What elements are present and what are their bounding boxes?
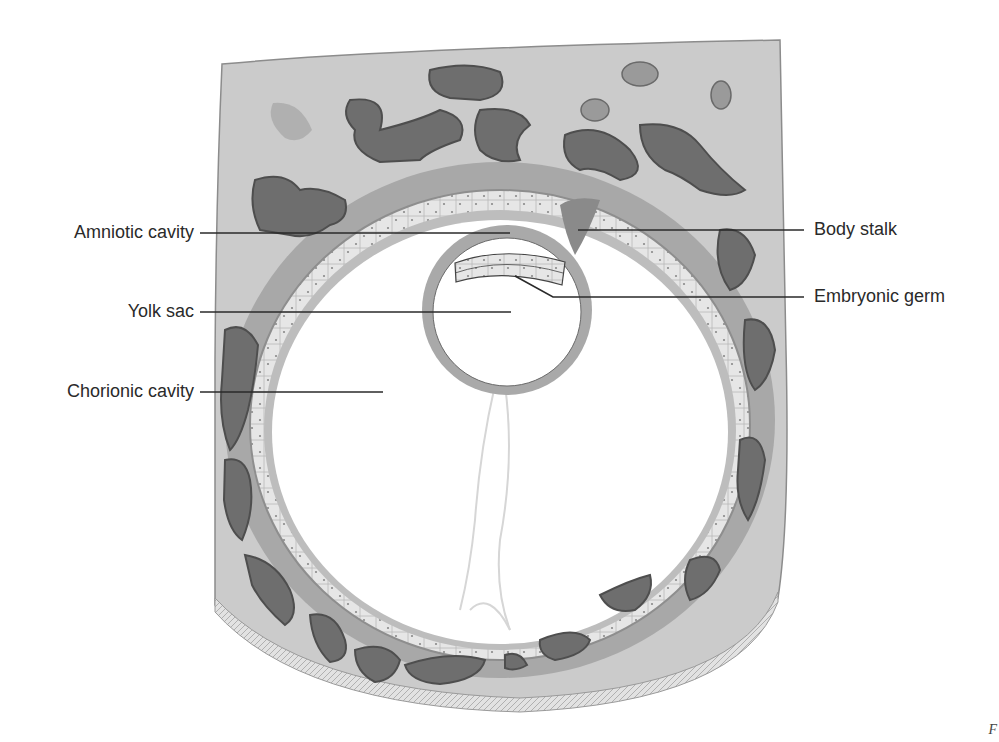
- label-amniotic-cavity: Amniotic cavity: [74, 222, 194, 242]
- label-body-stalk: Body stalk: [814, 219, 897, 239]
- embryonic-vesicle: [422, 225, 592, 395]
- label-embryonic-germ: Embryonic germ: [814, 286, 945, 306]
- embryo-diagram: [0, 0, 999, 742]
- figure-corner-mark: F: [988, 722, 997, 738]
- label-chorionic-cavity: Chorionic cavity: [67, 381, 194, 401]
- label-yolk-sac: Yolk sac: [128, 301, 194, 321]
